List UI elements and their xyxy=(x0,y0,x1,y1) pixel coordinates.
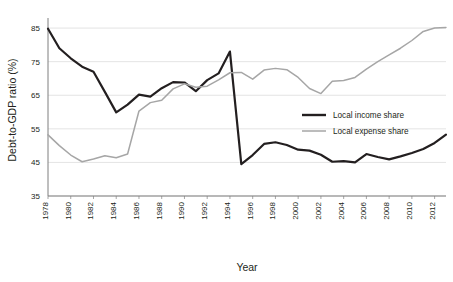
y-tick-label: 55 xyxy=(31,125,40,134)
x-tick-label: 1992 xyxy=(200,201,209,219)
x-tick-label: 1986 xyxy=(132,201,141,219)
x-axis-title: Year xyxy=(236,261,258,273)
x-tick-label: 1980 xyxy=(64,201,73,219)
x-tick-label: 2000 xyxy=(291,201,300,219)
y-tick-label: 65 xyxy=(31,91,40,100)
y-tick-label: 35 xyxy=(31,192,40,201)
x-tick-label: 2006 xyxy=(359,201,368,219)
x-tick-label: 2004 xyxy=(337,201,346,219)
legend-label-income: Local income share xyxy=(333,111,404,120)
legend-label-expense: Local expense share xyxy=(333,127,409,136)
chart-background xyxy=(0,0,453,282)
x-tick-label: 1984 xyxy=(109,201,118,219)
x-tick-label: 1996 xyxy=(246,201,255,219)
chart-figure: 857565554535 197819801982198419861988199… xyxy=(0,0,453,282)
y-tick-label: 45 xyxy=(31,158,40,167)
x-tick-label: 1982 xyxy=(86,201,95,219)
x-tick-label: 1990 xyxy=(177,201,186,219)
x-tick-label: 1998 xyxy=(268,201,277,219)
x-tick-label: 2002 xyxy=(314,201,323,219)
x-tick-label: 2012 xyxy=(428,201,437,219)
y-axis-title: Debt-to-GDP ratio (%) xyxy=(6,58,18,161)
y-tick-label: 85 xyxy=(31,24,40,33)
line-chart: 857565554535 197819801982198419861988199… xyxy=(0,0,453,282)
x-tick-label: 1988 xyxy=(155,201,164,219)
x-tick-label: 1994 xyxy=(223,201,232,219)
x-tick-label: 2010 xyxy=(405,201,414,219)
y-tick-label: 75 xyxy=(31,58,40,67)
x-tick-label: 1978 xyxy=(41,201,50,219)
x-tick-label: 2008 xyxy=(382,201,391,219)
